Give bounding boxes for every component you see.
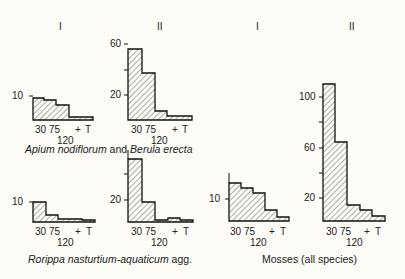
apium-II-bars	[128, 49, 192, 120]
caption-apium: Apium nodiflorum and Berula erecta	[25, 143, 193, 155]
rorippa-I-xlabel-T: T	[86, 226, 92, 237]
rorippa-I-xlabel-plus: +	[75, 226, 81, 237]
rorippa-I-ytick: 10	[12, 196, 23, 207]
mosses-I-xlabel-120: 120	[250, 237, 267, 248]
caption-mosses: Mosses (all species)	[262, 253, 357, 265]
rorippa-II-xlabel-30-75: 30 75	[131, 226, 156, 237]
mosses-I-ytick: 10	[209, 193, 220, 204]
col-header-I-right: I	[256, 21, 259, 32]
apium-I-xlabel-30-75: 30 75	[35, 124, 60, 135]
mosses-II-ytick-100: 100	[299, 91, 316, 102]
apium-II-ytick-20: 20	[110, 89, 121, 100]
caption-rorippa: Rorippa nasturtium-aquaticum agg.	[28, 253, 192, 265]
rorippa-I-bars	[33, 202, 95, 222]
caption-apium-and: and	[107, 143, 130, 155]
mosses-II-xlabel-plus: +	[364, 226, 370, 237]
mosses-I-xlabel-30-75: 30 75	[230, 226, 255, 237]
mosses-I-bars	[229, 183, 289, 221]
rorippa-II-bars	[128, 159, 193, 222]
mosses-II-bars	[323, 84, 385, 221]
rorippa-II-xlabel-T: T	[183, 226, 189, 237]
mosses-II-xlabel-120: 120	[346, 237, 363, 248]
caption-apium-species-a: Apium nodiflorum	[25, 143, 107, 155]
apium-II-xlabel-30-75: 30 75	[131, 124, 156, 135]
apium-II-ytick-60: 60	[110, 38, 121, 49]
mosses-II-ytick-60: 60	[304, 142, 315, 153]
mosses-II-xlabel-T: T	[375, 226, 381, 237]
col-header-II-right: II	[349, 21, 355, 32]
rorippa-II-xlabel-plus: +	[172, 226, 178, 237]
mosses-I-xlabel-plus: +	[269, 226, 275, 237]
caption-apium-species-b: Berula erecta	[130, 143, 192, 155]
apium-I-xlabel-plus: +	[75, 124, 81, 135]
apium-II-xlabel-T: T	[182, 124, 188, 135]
mosses-II-xlabel-30-75: 30 75	[326, 226, 351, 237]
apium-II-xlabel-plus: +	[172, 124, 178, 135]
mosses-I-xlabel-T: T	[280, 226, 286, 237]
apium-I-ytick: 10	[12, 90, 23, 101]
rorippa-II-ytick: 20	[110, 194, 121, 205]
rorippa-II-xlabel-120: 120	[151, 237, 168, 248]
apium-I-bars	[33, 98, 93, 120]
col-header-II: II	[157, 21, 163, 32]
mosses-II-ytick-20: 20	[304, 192, 315, 203]
apium-I-xlabel-T: T	[85, 124, 91, 135]
col-header-I: I	[59, 21, 62, 32]
rorippa-I-xlabel-120: 120	[57, 237, 74, 248]
caption-rorippa-species: Rorippa nasturtium-aquaticum	[28, 253, 169, 265]
caption-rorippa-agg: agg.	[169, 253, 192, 265]
rorippa-I-xlabel-30-75: 30 75	[35, 226, 60, 237]
